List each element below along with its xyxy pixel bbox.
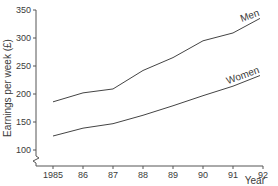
series-label-men: Men	[239, 7, 261, 24]
y-tick-label: 100	[16, 145, 31, 155]
x-tick-label: 90	[198, 170, 208, 180]
y-tick-label: 250	[16, 61, 31, 71]
y-axis: 100150200250300350	[16, 5, 39, 166]
earnings-line-chart: 100150200250300350 198586878889909192 Ea…	[0, 0, 278, 186]
x-axis: 198586878889909192	[36, 166, 268, 180]
x-tick-label: 91	[228, 170, 238, 180]
y-tick-label: 200	[16, 89, 31, 99]
y-axis-title: Earnings per week (£)	[2, 39, 13, 137]
y-tick-label: 300	[16, 33, 31, 43]
x-tick-label: 86	[78, 170, 88, 180]
y-tick-label: 150	[16, 117, 31, 127]
x-tick-label: 88	[138, 170, 148, 180]
x-tick-label: 1985	[43, 170, 63, 180]
x-axis-title: Year	[245, 175, 266, 186]
x-tick-label: 87	[108, 170, 118, 180]
y-tick-label: 350	[16, 5, 31, 15]
x-tick-label: 89	[168, 170, 178, 180]
axis-break-icon	[33, 156, 39, 166]
series-line-men	[53, 18, 260, 101]
